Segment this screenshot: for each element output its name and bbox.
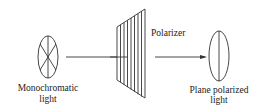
plane-polarized-light: [209, 31, 229, 81]
output-label-line2: light: [210, 95, 228, 105]
monochromatic-light-source: [38, 36, 58, 78]
polarized-light-arrow: [155, 55, 207, 59]
polarizer-panel: [117, 9, 145, 98]
source-label-line2: light: [39, 94, 57, 104]
polarizer-label: Polarizer: [151, 28, 186, 38]
polarization-diagram: Monochromatic light Polarizer Plane pola…: [0, 0, 260, 112]
source-label-line1: Monochromatic: [18, 83, 79, 93]
output-label-line1: Plane polarized: [190, 85, 249, 95]
